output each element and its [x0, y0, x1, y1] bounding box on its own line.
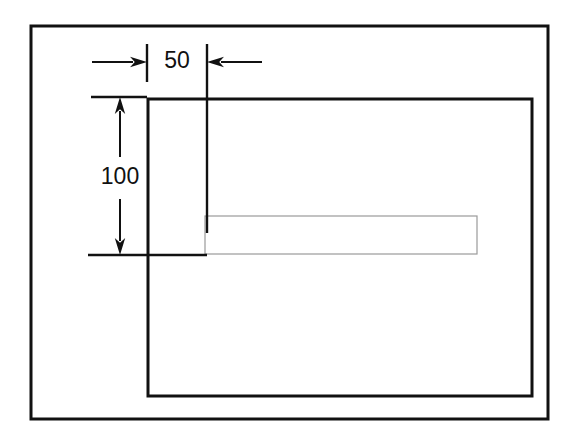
dimension-label-100: 100 — [101, 163, 139, 189]
technical-drawing-canvas: 50 100 — [0, 0, 569, 440]
canvas-background — [0, 0, 569, 440]
dimension-label-50: 50 — [164, 47, 190, 73]
dimension-diagram: 50 100 — [0, 0, 569, 440]
